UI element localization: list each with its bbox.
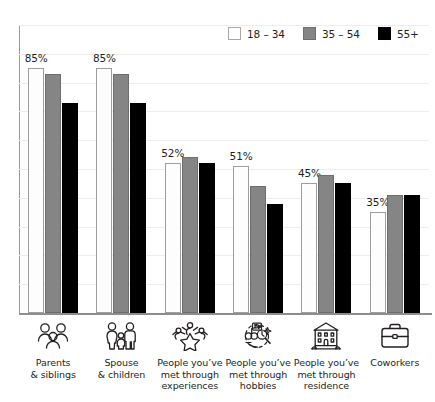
family-group-icon xyxy=(36,318,70,354)
bar-group: 35% xyxy=(361,25,429,313)
bar[interactable] xyxy=(318,175,334,313)
people-star-icon xyxy=(172,318,208,354)
category-axis-label: Spouse& children xyxy=(87,357,155,380)
bar-group: 85% xyxy=(19,25,87,313)
building-residence-icon xyxy=(309,318,343,354)
category-axis-item: Spouse& children xyxy=(87,315,155,402)
category-axis-label: People you’vemet throughexperiences xyxy=(156,357,224,392)
category-axis-item: Coworkers xyxy=(361,315,429,402)
bar[interactable] xyxy=(404,195,420,313)
category-axis: Parents& siblingsSpouse& childrenPeople … xyxy=(19,315,429,402)
bar[interactable] xyxy=(250,186,266,313)
bar-value-label: 85% xyxy=(93,52,116,64)
bar[interactable] xyxy=(62,103,78,313)
bar[interactable] xyxy=(130,103,146,313)
bar-group: 52% xyxy=(156,25,224,313)
bar-groups: 85%85%52%51%45%35% xyxy=(19,25,429,313)
bar-group: 51% xyxy=(224,25,292,313)
bar[interactable]: 52% xyxy=(165,163,181,313)
plot-area: 85%85%52%51%45%35% xyxy=(19,25,429,313)
category-axis-item: People you’vemet throughresidence xyxy=(292,315,360,402)
bar[interactable] xyxy=(45,74,61,313)
category-axis-label: Parents& siblings xyxy=(19,357,87,380)
bar[interactable] xyxy=(182,157,198,313)
bar[interactable] xyxy=(199,163,215,313)
bar[interactable] xyxy=(335,183,351,313)
category-axis-label: People you’vemet throughhobbies xyxy=(224,357,292,392)
family-parents-child-icon xyxy=(104,318,138,354)
bar[interactable] xyxy=(267,204,283,313)
briefcase-icon xyxy=(378,318,412,354)
bar[interactable] xyxy=(113,74,129,313)
bar-value-label: 85% xyxy=(25,52,48,64)
bar-value-label: 51% xyxy=(230,150,253,162)
category-axis-label: Coworkers xyxy=(361,357,429,369)
bar[interactable] xyxy=(387,195,403,313)
bar[interactable]: 51% xyxy=(233,166,249,313)
category-axis-item: People you’vemet throughexperiences xyxy=(156,315,224,402)
bar-chart: 18 – 34 35 – 54 55+ 85%85%52%51%45%35% P… xyxy=(0,0,435,402)
category-axis-item: People you’vemet throughhobbies xyxy=(224,315,292,402)
bar-group: 45% xyxy=(292,25,360,313)
bar[interactable]: 45% xyxy=(301,183,317,313)
bar[interactable]: 85% xyxy=(28,68,44,313)
bar[interactable]: 35% xyxy=(370,212,386,313)
bar[interactable]: 85% xyxy=(96,68,112,313)
hobbies-icon xyxy=(240,318,276,354)
category-axis-label: People you’vemet throughresidence xyxy=(292,357,360,392)
category-axis-item: Parents& siblings xyxy=(19,315,87,402)
bar-group: 85% xyxy=(87,25,155,313)
